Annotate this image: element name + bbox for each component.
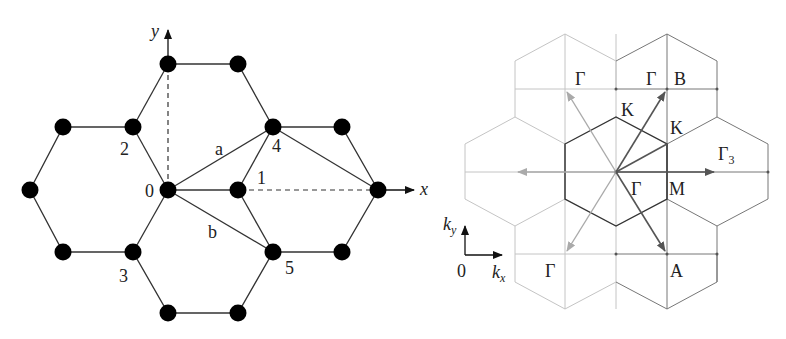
gamma-label-bottomleft: Γ	[545, 261, 555, 281]
a-label: A	[670, 261, 683, 281]
site-label-2: 2	[120, 139, 129, 159]
bond-label-a: a	[215, 139, 223, 159]
b-label: B	[674, 69, 686, 89]
diagram-canvas: y x 0 1 2 3 4 5 a b	[0, 0, 786, 339]
site-label-1: 1	[257, 168, 266, 188]
figure: y x 0 1 2 3 4 5 a b	[0, 0, 786, 339]
x-axis-label: x	[419, 179, 428, 199]
origin-label: 0	[457, 261, 466, 281]
kx-label: kx	[492, 262, 506, 285]
gamma-label-top: Γ	[646, 69, 656, 89]
k-label-1: K	[621, 100, 634, 120]
gamma-label-topleft: Γ	[575, 69, 585, 89]
m-label: M	[669, 179, 685, 199]
honeycomb-lattice	[30, 64, 378, 313]
site-label-4: 4	[272, 136, 281, 156]
vector-b	[168, 190, 273, 252]
gamma3-label: Γ3	[718, 144, 734, 167]
k-label-2: K	[670, 118, 683, 138]
bond-label-b: b	[208, 222, 217, 242]
y-axis-label: y	[149, 21, 159, 41]
lattice-sites	[22, 56, 387, 322]
reciprocal-vectors-light	[518, 92, 616, 251]
gamma-label-center: Γ	[631, 179, 641, 199]
ky-label: ky	[443, 214, 457, 237]
site-label-3: 3	[119, 266, 128, 286]
site-label-5: 5	[285, 258, 294, 278]
site-label-0: 0	[145, 181, 154, 201]
